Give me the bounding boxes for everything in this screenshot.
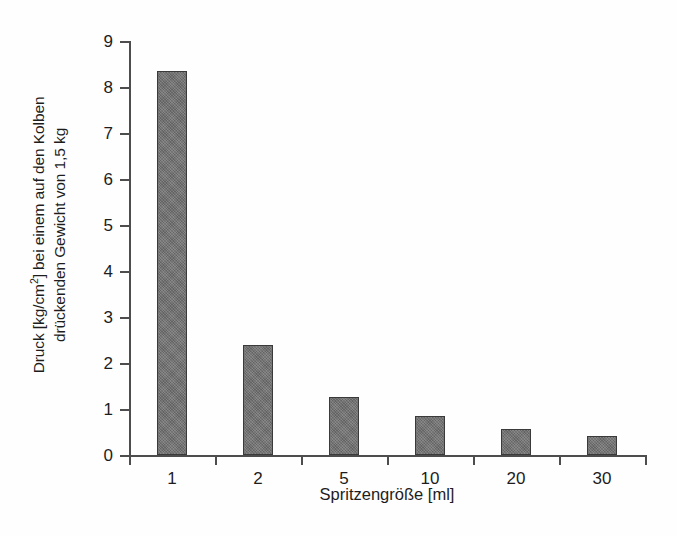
x-axis-tick (473, 455, 475, 465)
y-axis-title-suffix: ] bei einem auf den Kolben (30, 97, 47, 279)
y-axis-title-superscript: 2 (28, 278, 40, 284)
y-axis-tick-label: 3 (104, 308, 113, 328)
x-axis-title: Spritzengröße [ml] (129, 485, 645, 504)
x-axis-tick (559, 455, 561, 465)
plot-area: 0123456789 125102030 (129, 41, 645, 455)
x-axis-tick (301, 455, 303, 465)
y-axis-tick-label: 7 (104, 124, 113, 144)
y-axis-tick-label: 4 (104, 262, 113, 282)
y-axis-line (129, 41, 131, 455)
y-axis-tick: 2 (120, 363, 129, 365)
x-axis-tick (215, 455, 217, 465)
bar-chart-figure: Druck [kg/cm2] bei einem auf den Kolben … (0, 0, 677, 536)
y-axis-tick: 8 (120, 87, 129, 89)
x-axis-tick (387, 455, 389, 465)
y-axis-tick-label: 6 (104, 170, 113, 190)
y-axis-tick: 1 (120, 409, 129, 411)
y-axis-tick-label: 2 (104, 354, 113, 374)
y-axis-title-text: Druck [kg/cm2] bei einem auf den Kolben … (29, 97, 71, 374)
y-axis-tick: 4 (120, 271, 129, 273)
y-axis-title-line-2: drückenden Gewicht von 1,5 kg (50, 97, 71, 374)
y-axis-title: Druck [kg/cm2] bei einem auf den Kolben … (0, 0, 100, 470)
y-axis-tick-label: 1 (104, 400, 113, 420)
bar (157, 71, 187, 455)
y-axis-tick-label: 0 (104, 446, 113, 466)
y-axis-title-prefix: Druck [kg/cm (30, 284, 47, 373)
y-axis-tick-label: 5 (104, 216, 113, 236)
y-axis-tick: 0 (120, 455, 129, 457)
bar (329, 397, 359, 455)
bar (587, 436, 617, 455)
bar (501, 429, 531, 455)
y-axis-tick: 5 (120, 225, 129, 227)
y-axis-tick-label: 8 (104, 78, 113, 98)
y-axis-tick: 6 (120, 179, 129, 181)
x-axis-tick (645, 455, 647, 465)
y-axis-tick-label: 9 (104, 32, 113, 52)
y-axis-tick: 9 (120, 41, 129, 43)
y-axis-title-line-1: Druck [kg/cm2] bei einem auf den Kolben (29, 97, 50, 374)
bar (243, 345, 273, 455)
y-axis-tick: 7 (120, 133, 129, 135)
x-axis-tick (129, 455, 131, 465)
y-axis-tick: 3 (120, 317, 129, 319)
bar (415, 416, 445, 455)
